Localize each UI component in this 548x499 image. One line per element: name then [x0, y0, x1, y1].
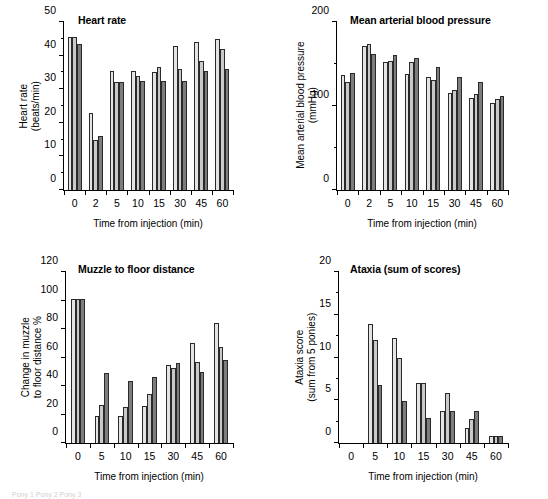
- y-axis-tick: [61, 357, 66, 358]
- x-axis-tick: [85, 190, 86, 195]
- x-axis-tick: [106, 190, 107, 195]
- y-axis-tick: [61, 328, 66, 329]
- x-axis-tick: [212, 190, 213, 195]
- y-axis-tick: [59, 55, 64, 56]
- y-axis-minor-tick: [334, 147, 338, 148]
- y-axis-tick-label: 15: [319, 297, 339, 309]
- panel-muzzle-distance: Muzzle to floor distance Change in muzzl…: [0, 250, 274, 499]
- bar: [350, 73, 355, 190]
- y-axis-tick-label: 5: [325, 382, 339, 394]
- x-axis-tick: [444, 190, 445, 195]
- x-axis-tick-label: 60: [491, 197, 503, 209]
- x-axis-tick-label: 5: [99, 450, 105, 462]
- bar-group: [368, 272, 382, 443]
- y-axis-tick-label: 80: [46, 311, 66, 323]
- bar: [402, 401, 407, 443]
- y-axis-minor-tick: [336, 292, 340, 293]
- y-axis-tick-label: 100: [311, 88, 337, 100]
- plot-area-blood-pressure: 01002000251015304560: [336, 22, 508, 191]
- x-axis-tick: [401, 190, 402, 195]
- x-axis-tick: [380, 190, 381, 195]
- figure-panel-grid: Heart rate Heart rate(beats/min) 0102030…: [0, 0, 548, 499]
- bar: [500, 96, 505, 190]
- x-axis-tick-label: 5: [388, 197, 394, 209]
- y-axis-minor-tick: [61, 172, 65, 173]
- y-axis-title-line2: (sum from 5 ponies): [306, 313, 317, 402]
- x-axis-tick: [66, 443, 67, 448]
- bar-group: [131, 22, 145, 190]
- y-axis-tick-label: 20: [44, 105, 64, 117]
- bar: [98, 136, 103, 190]
- y-axis-tick-label: 120: [40, 254, 66, 266]
- bar-group: [416, 272, 430, 443]
- x-axis-tick: [191, 190, 192, 195]
- panel-ataxia: Ataxia (sum of scores) Ataxia score(sum …: [274, 250, 548, 499]
- y-axis-tick: [61, 271, 66, 272]
- y-axis-title-blood-pressure: Mean arterial blood pressure(mmHg): [295, 32, 319, 178]
- y-axis-title-line2: (beats/min): [30, 81, 41, 131]
- y-axis-tick: [61, 300, 66, 301]
- x-axis-title-heart-rate: Time from injection (min): [63, 218, 233, 229]
- bar-group: [440, 272, 454, 443]
- panel-heart-rate: Heart rate Heart rate(beats/min) 0102030…: [0, 0, 274, 250]
- x-axis-tick-label: 15: [418, 450, 430, 462]
- x-axis-tick: [508, 190, 509, 195]
- bar-group: [469, 22, 483, 190]
- y-axis-tick-label: 0: [325, 425, 339, 437]
- x-axis-tick-label: 30: [168, 450, 180, 462]
- bar-group: [194, 22, 208, 190]
- y-axis-minor-tick: [61, 38, 65, 39]
- x-axis-tick: [170, 190, 171, 195]
- y-axis-tick-label: 60: [46, 340, 66, 352]
- y-axis-tick-label: 0: [52, 425, 66, 437]
- bar-group: [489, 272, 503, 443]
- bar: [80, 299, 85, 443]
- x-axis-tick-label: 2: [366, 197, 372, 209]
- bar: [152, 377, 157, 443]
- x-axis-tick: [64, 190, 65, 195]
- x-axis-title-muzzle-distance: Time from injection (min): [65, 471, 233, 482]
- bar-group: [89, 22, 103, 190]
- y-axis-tick: [334, 271, 339, 272]
- plot-area-muzzle-distance: 020406080100120051015304560: [65, 272, 233, 444]
- plot-inner-ataxia: 05101520051015304560: [339, 272, 508, 443]
- x-axis-tick: [233, 190, 234, 195]
- bar-group: [383, 22, 397, 190]
- plot-inner-muzzle-distance: 020406080100120051015304560: [66, 272, 233, 443]
- x-axis-tick: [423, 190, 424, 195]
- y-axis-tick: [59, 21, 64, 22]
- x-axis-tick: [363, 443, 364, 448]
- y-axis-tick-label: 20: [319, 254, 339, 266]
- x-axis-tick: [436, 443, 437, 448]
- x-axis-tick-label: 30: [442, 450, 454, 462]
- y-axis-tick-label: 200: [311, 4, 337, 16]
- x-axis-tick-label: 10: [394, 450, 406, 462]
- x-axis-tick: [387, 443, 388, 448]
- x-axis-tick-label: 45: [470, 197, 482, 209]
- figure-footnote-legend: Pony 1 Pony 2 Pony 3: [12, 491, 81, 499]
- x-axis-tick: [233, 443, 234, 448]
- y-axis-tick: [61, 414, 66, 415]
- bar: [200, 372, 205, 443]
- bar: [140, 81, 145, 190]
- x-axis-tick-label: 60: [215, 450, 227, 462]
- x-axis-tick: [487, 190, 488, 195]
- y-axis-minor-tick: [334, 63, 338, 64]
- y-axis-tick: [332, 21, 337, 22]
- x-axis-tick: [358, 190, 359, 195]
- bar: [176, 363, 181, 443]
- y-axis-tick: [334, 357, 339, 358]
- y-axis-title-line2: to floor distance %: [32, 316, 43, 398]
- y-axis-title-line1: Heart rate: [18, 84, 29, 128]
- y-axis-tick: [61, 385, 66, 386]
- x-axis-tick-label: 30: [449, 197, 461, 209]
- x-axis-tick: [185, 443, 186, 448]
- x-axis-tick: [465, 190, 466, 195]
- bar: [474, 411, 479, 443]
- x-axis-tick: [508, 443, 509, 448]
- x-axis-tick: [138, 443, 139, 448]
- x-axis-tick: [161, 443, 162, 448]
- x-axis-title-blood-pressure: Time from injection (min): [336, 218, 508, 229]
- y-axis-minor-tick: [61, 71, 65, 72]
- y-axis-title-line1: Change in muzzle: [20, 317, 31, 397]
